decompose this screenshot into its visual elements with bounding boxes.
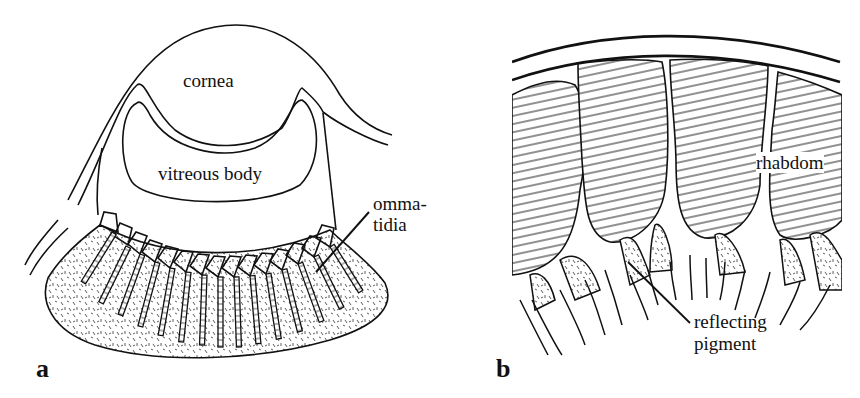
label-reflecting-line2: pigment — [694, 333, 756, 354]
label-ommatidia-line2: tidia — [373, 214, 407, 235]
eye-anatomy-figure: cornea vitreous body omma- tidia a rhabd… — [0, 0, 860, 398]
label-cornea: cornea — [183, 70, 234, 91]
label-vitreous-body: vitreous body — [158, 163, 262, 184]
panel-b-drawing — [512, 36, 842, 355]
label-reflecting-line1: reflecting — [694, 311, 767, 332]
label-ommatidia-line1: omma- — [373, 193, 427, 214]
panel-letter-b: b — [496, 354, 510, 384]
label-rhabdom: rhabdom — [756, 152, 824, 173]
panel-letter-a: a — [36, 354, 49, 384]
